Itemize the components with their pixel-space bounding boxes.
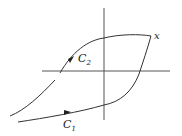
hysteresis-diagram: C2 C1 x	[0, 0, 182, 136]
label-x: x	[154, 30, 160, 41]
label-c2: C2	[78, 52, 91, 67]
arrow-c1-icon	[64, 110, 71, 115]
label-c1: C1	[63, 118, 76, 133]
curve-c2	[60, 35, 151, 73]
curve-c1	[18, 105, 104, 122]
curve-lower-left	[10, 80, 55, 116]
